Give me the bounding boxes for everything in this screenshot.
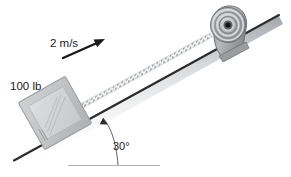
velocity-label: 2 m/s xyxy=(50,37,78,49)
pulley-hub-icon xyxy=(225,22,230,27)
block-weight-label: 100 lb xyxy=(10,80,41,92)
diagram-canvas: 100 lb 2 m/s 30° xyxy=(0,0,291,177)
pulley-wheel xyxy=(211,8,246,43)
incline-angle-label: 30° xyxy=(113,140,130,152)
physics-diagram-figure: 100 lb 2 m/s 30° xyxy=(0,0,291,177)
